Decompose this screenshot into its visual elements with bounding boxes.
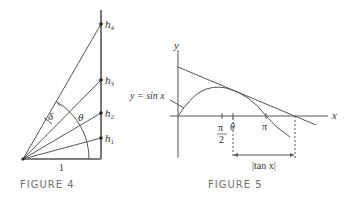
figures-canvas: h4 h3 h2 h1 δ θ 1 y x y = sin x π 2 θ π …: [0, 0, 352, 198]
label-h1: h1: [105, 132, 115, 146]
label-pi-half-den: 2: [219, 134, 224, 145]
label-delta: δ: [48, 110, 54, 122]
label-h2: h2: [105, 107, 115, 121]
label-pi-half-num: π: [218, 122, 223, 133]
label-pi: π: [262, 121, 267, 132]
theta-arc: [57, 102, 89, 159]
label-theta-x: θ: [230, 121, 235, 132]
label-x-axis: x: [331, 109, 337, 121]
figure-4: [23, 10, 101, 159]
figure-5-caption: FIGURE 5: [208, 179, 263, 190]
label-h3: h3: [105, 74, 115, 88]
arrow-right-icon: [290, 153, 294, 157]
arrow-left-icon: [234, 153, 238, 157]
figure-4-caption: FIGURE 4: [20, 179, 75, 190]
label-h4: h4: [105, 18, 115, 32]
label-y-axis: y: [173, 39, 179, 51]
label-tan: |tan x|: [252, 160, 276, 171]
curve-label-leader: [170, 100, 184, 108]
label-theta: θ: [78, 111, 84, 123]
label-base-1: 1: [59, 162, 64, 173]
label-curve: y = sin x: [129, 90, 165, 101]
figure-5: [170, 50, 328, 158]
